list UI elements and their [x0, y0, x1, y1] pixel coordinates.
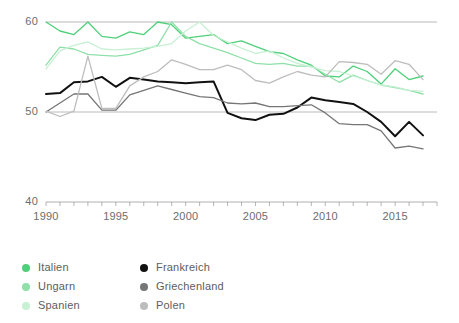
legend-item-spanien[interactable]: Spanien: [22, 296, 140, 315]
legend-label: Italien: [38, 262, 69, 273]
series-line-ungarn: [46, 22, 423, 94]
legend-swatch-icon: [140, 264, 148, 272]
legend-label: Ungarn: [38, 281, 75, 292]
series-line-frankreich: [46, 77, 423, 136]
x-axis-label-2010: 2010: [305, 210, 345, 222]
chart-page: 605040 199019952000200520102015 ItalienU…: [0, 0, 459, 323]
legend-swatch-icon: [140, 283, 148, 291]
legend-swatch-icon: [22, 264, 30, 272]
x-axis-label-1995: 1995: [96, 210, 136, 222]
legend-item-polen[interactable]: Polen: [140, 296, 258, 315]
legend-label: Griechenland: [156, 281, 224, 292]
x-axis-label-2005: 2005: [235, 210, 275, 222]
legend-label: Spanien: [38, 300, 80, 311]
x-axis-label-2015: 2015: [375, 210, 415, 222]
y-axis-label-50: 50: [14, 105, 38, 117]
legend-item-frankreich[interactable]: Frankreich: [140, 258, 258, 277]
legend-swatch-icon: [140, 302, 148, 310]
chart-svg: [0, 0, 459, 230]
legend-item-italien[interactable]: Italien: [22, 258, 140, 277]
legend-item-ungarn[interactable]: Ungarn: [22, 277, 140, 296]
x-axis-ticks: [46, 202, 437, 206]
series-line-griechenland: [46, 86, 423, 149]
legend-swatch-icon: [22, 302, 30, 310]
y-axis-label-60: 60: [14, 15, 38, 27]
legend-item-griechenland[interactable]: Griechenland: [140, 277, 258, 296]
chart-legend: ItalienUngarnSpanienFrankreichGriechenla…: [22, 258, 322, 316]
series-line-polen: [46, 56, 423, 116]
x-axis-label-1990: 1990: [26, 210, 66, 222]
legend-swatch-icon: [22, 283, 30, 291]
series-line-italien: [46, 22, 423, 84]
legend-label: Polen: [156, 300, 185, 311]
legend-label: Frankreich: [156, 262, 210, 273]
line-chart-plot: [0, 0, 459, 230]
series-lines: [46, 22, 423, 149]
x-axis-label-2000: 2000: [166, 210, 206, 222]
y-axis-label-40: 40: [14, 195, 38, 207]
series-line-spanien: [46, 22, 423, 91]
